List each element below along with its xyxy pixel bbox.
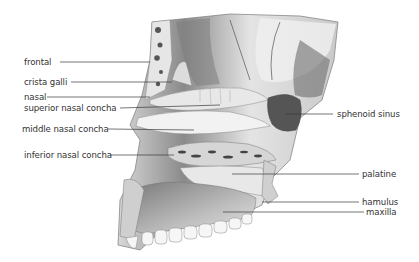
label-maxilla: maxilla (366, 207, 396, 217)
label-middle-nasal-concha: middle nasal concha (22, 124, 109, 134)
label-frontal: frontal (24, 57, 51, 67)
label-crista-galli: crista galli (24, 77, 67, 87)
label-inferior-nasal-concha: inferior nasal concha (24, 150, 112, 160)
label-palatine: palatine (362, 169, 396, 179)
hamulus (262, 160, 278, 204)
label-superior-nasal-concha: superior nasal concha (24, 103, 116, 113)
anatomy-figure: frontal crista galli nasal superior nasa… (0, 0, 419, 262)
label-sphenoid-sinus: sphenoid sinus (337, 109, 400, 119)
label-hamulus: hamulus (362, 197, 398, 207)
label-nasal: nasal (24, 92, 46, 102)
